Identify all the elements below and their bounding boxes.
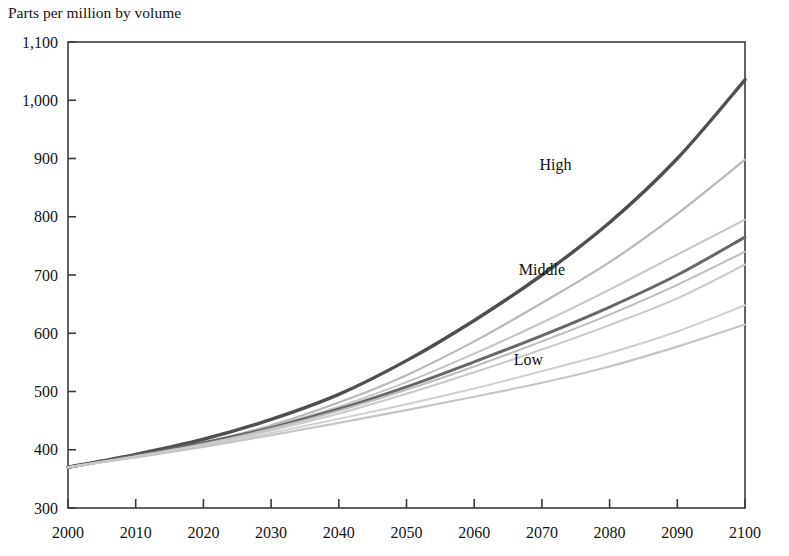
y-tick-label: 1,100 <box>22 34 58 51</box>
series-line-scenario-a1 <box>68 160 745 468</box>
y-tick-label: 600 <box>34 325 58 342</box>
x-tick-label: 2090 <box>661 524 693 541</box>
x-tick-label: 2100 <box>729 524 761 541</box>
x-axis-tick-labels: 2000201020202030204020502060207020802090… <box>52 524 761 541</box>
y-tick-label: 700 <box>34 267 58 284</box>
y-tick-label: 400 <box>34 441 58 458</box>
y-tick-label: 300 <box>34 500 58 517</box>
series-line-scenario-b2 <box>68 265 745 468</box>
x-tick-label: 2040 <box>323 524 355 541</box>
y-tick-label: 500 <box>34 383 58 400</box>
y-axis-tick-labels: 3004005006007008009001,0001,100 <box>22 34 58 517</box>
axis-tick-marks <box>68 42 745 508</box>
y-tick-label: 1,000 <box>22 92 58 109</box>
x-tick-label: 2010 <box>120 524 152 541</box>
series-lines-group <box>68 80 745 467</box>
x-tick-label: 2050 <box>391 524 423 541</box>
x-tick-label: 2060 <box>458 524 490 541</box>
x-tick-label: 2020 <box>187 524 219 541</box>
x-tick-label: 2000 <box>52 524 84 541</box>
series-label-low: Low <box>514 351 544 368</box>
chart-axis-title: Parts per million by volume <box>8 4 181 21</box>
series-label-middle: Middle <box>519 261 565 278</box>
emissions-projection-chart: Parts per million by volume 300400500600… <box>0 0 789 556</box>
y-tick-label: 800 <box>34 208 58 225</box>
plot-area-frame <box>68 42 745 508</box>
x-tick-label: 2030 <box>255 524 287 541</box>
series-label-high: High <box>539 156 571 174</box>
x-tick-label: 2080 <box>594 524 626 541</box>
x-tick-label: 2070 <box>526 524 558 541</box>
y-tick-label: 900 <box>34 150 58 167</box>
